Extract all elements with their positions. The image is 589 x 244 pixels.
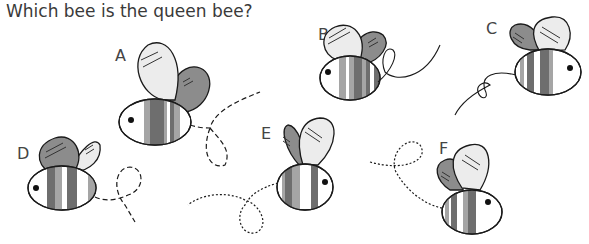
bee-b[interactable] <box>320 25 440 104</box>
bee-c[interactable] <box>455 17 581 115</box>
bee-d[interactable] <box>28 137 141 222</box>
bee-f[interactable] <box>370 142 502 238</box>
bee-a[interactable] <box>119 43 260 166</box>
bee-e[interactable] <box>188 118 334 233</box>
bees-illustration <box>0 0 589 244</box>
